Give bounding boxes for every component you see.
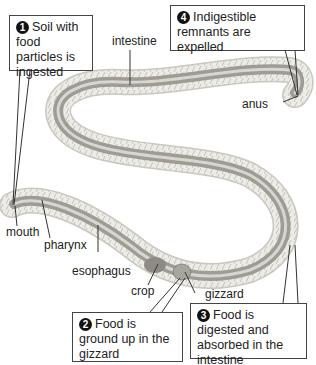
step-3-callout: 3Food is digested and absorbed in the in… [190, 303, 307, 359]
step-number-3: 3 [197, 309, 210, 322]
step-number-4: 4 [177, 11, 190, 24]
step-1-callout: 1Soil with food particles is ingested [9, 15, 93, 71]
label-intestine: intestine [112, 34, 157, 48]
label-anus: anus [242, 97, 268, 111]
label-gizzard: gizzard [205, 287, 244, 301]
gizzard [173, 264, 191, 280]
label-esophagus: esophagus [72, 264, 131, 278]
step-4-callout: 4Indigestible remnants are expelled [170, 5, 305, 51]
step-2-text: Food is ground up in the gizzard [79, 317, 169, 361]
step-2-callout: 2Food is ground up in the gizzard [72, 312, 183, 362]
step-number-2: 2 [79, 318, 92, 331]
label-mouth: mouth [6, 225, 39, 239]
label-pharynx: pharynx [44, 238, 87, 252]
label-crop: crop [131, 284, 154, 298]
step-3-text: Food is digested and absorbed in the int… [197, 308, 283, 365]
step-number-1: 1 [16, 21, 29, 34]
